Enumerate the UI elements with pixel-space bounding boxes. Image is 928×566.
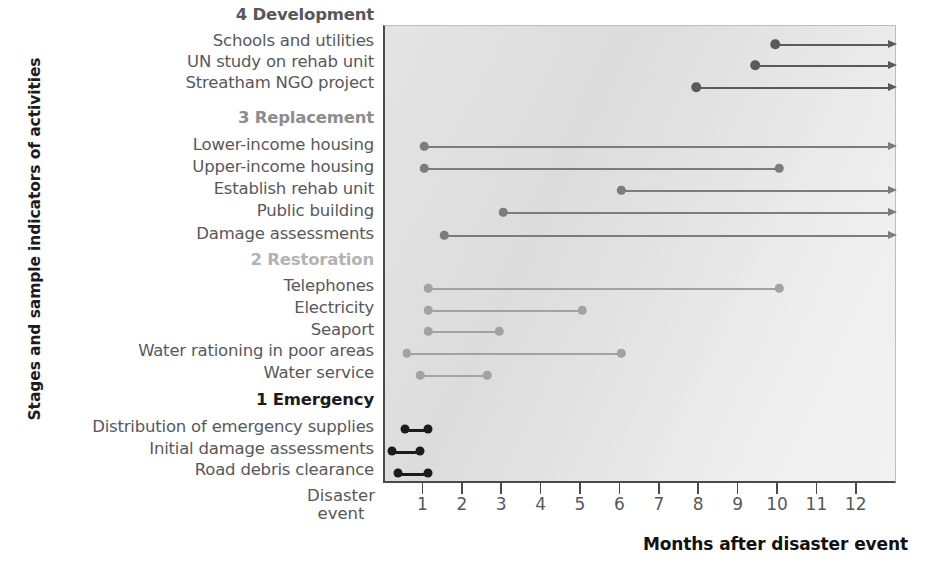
bar-start-marker	[401, 425, 410, 434]
bar-stem	[424, 168, 779, 170]
x-axis-title: Months after disaster event	[396, 534, 908, 554]
bar-stem	[755, 65, 889, 67]
bar-stem	[775, 44, 889, 46]
bar-end-marker	[775, 164, 784, 173]
activity-label-water-service: Water service	[263, 365, 374, 382]
origin-label: Disaster event	[292, 487, 390, 523]
bar-stem	[503, 212, 889, 214]
bar-start-marker	[499, 208, 508, 217]
activity-label-schools-and-utilities: Schools and utilities	[213, 33, 374, 50]
bar-start-marker	[617, 186, 626, 195]
bar-start-marker	[424, 306, 433, 315]
x-tick-5	[579, 483, 581, 494]
bar-continues-arrowhead	[888, 142, 897, 150]
bar-stem	[621, 190, 889, 192]
x-tick-10	[776, 483, 778, 494]
bar-start-marker	[402, 349, 411, 358]
bar-stem	[428, 288, 779, 290]
bar-continues-arrowhead	[888, 208, 897, 216]
activity-label-public-building: Public building	[257, 203, 374, 220]
bars-container	[385, 26, 895, 481]
x-tick-label-8: 8	[693, 494, 704, 514]
x-tick-label-10: 10	[766, 494, 788, 514]
x-tick-label-7: 7	[653, 494, 664, 514]
x-tick-12	[855, 483, 857, 494]
plot-area	[383, 25, 896, 483]
x-tick-label-5: 5	[575, 494, 586, 514]
bar-stem	[424, 146, 889, 148]
bar-end-marker	[483, 371, 492, 380]
bar-start-marker	[420, 164, 429, 173]
x-tick-3	[500, 483, 502, 494]
activity-label-establish-rehab-unit: Establish rehab unit	[214, 181, 374, 198]
bar-end-marker	[775, 284, 784, 293]
x-tick-label-9: 9	[732, 494, 743, 514]
bar-end-marker	[617, 349, 626, 358]
bar-stem	[428, 310, 582, 312]
stage-heading-3-replacement: 3 Replacement	[238, 110, 374, 127]
bar-end-marker	[416, 447, 425, 456]
bar-start-marker	[770, 39, 780, 49]
x-tick-label-1: 1	[417, 494, 428, 514]
bar-start-marker	[388, 447, 397, 456]
bar-stem	[444, 235, 889, 237]
bar-start-marker	[692, 82, 702, 92]
bar-continues-arrowhead	[888, 61, 897, 69]
bar-continues-arrowhead	[888, 40, 897, 48]
x-tick-label-6: 6	[614, 494, 625, 514]
activity-label-telephones: Telephones	[284, 278, 374, 295]
x-tick-9	[737, 483, 739, 494]
disaster-recovery-timeline-chart: Stages and sample indicators of activiti…	[0, 0, 928, 566]
x-tick-label-4: 4	[535, 494, 546, 514]
x-tick-4	[540, 483, 542, 494]
bar-start-marker	[751, 60, 761, 70]
bar-end-marker	[423, 425, 432, 434]
bar-continues-arrowhead	[888, 186, 897, 194]
activity-label-water-rationing-in-poor-areas: Water rationing in poor areas	[138, 343, 374, 360]
bar-start-marker	[420, 142, 429, 151]
activity-label-road-debris-clearance: Road debris clearance	[195, 462, 374, 479]
activity-label-initial-damage-assessments: Initial damage assessments	[149, 441, 374, 458]
x-tick-6	[619, 483, 621, 494]
activity-label-un-study-on-rehab-unit: UN study on rehab unit	[187, 54, 374, 71]
stage-heading-4-development: 4 Development	[236, 7, 374, 24]
origin-label-line1: Disaster	[292, 487, 390, 505]
bar-start-marker	[394, 469, 403, 478]
stage-heading-1-emergency: 1 Emergency	[256, 392, 374, 409]
x-tick-11	[816, 483, 818, 494]
bar-end-marker	[578, 306, 587, 315]
bar-end-marker	[495, 327, 504, 336]
bar-continues-arrowhead	[888, 83, 897, 91]
bar-stem	[420, 375, 487, 377]
bar-start-marker	[440, 231, 449, 240]
bar-stem	[428, 331, 499, 333]
activity-label-distribution-of-emergency-supplies: Distribution of emergency supplies	[92, 419, 374, 436]
x-tick-label-2: 2	[456, 494, 467, 514]
bar-start-marker	[424, 327, 433, 336]
x-tick-label-11: 11	[806, 494, 828, 514]
activity-label-electricity: Electricity	[294, 300, 374, 317]
x-tick-2	[461, 483, 463, 494]
x-tick-1	[422, 483, 424, 494]
bar-start-marker	[424, 284, 433, 293]
activity-label-damage-assessments: Damage assessments	[196, 226, 374, 243]
activity-label-streatham-ngo-project: Streatham NGO project	[186, 75, 374, 92]
stage-heading-2-restoration: 2 Restoration	[251, 252, 374, 269]
bar-stem	[696, 87, 889, 89]
activity-label-seaport: Seaport	[311, 322, 374, 339]
bar-continues-arrowhead	[888, 231, 897, 239]
x-axis-tick-labels: 123456789101112	[383, 494, 896, 520]
x-tick-8	[697, 483, 699, 494]
activity-label-upper-income-housing: Upper-income housing	[192, 159, 374, 176]
x-tick-label-12: 12	[845, 494, 867, 514]
origin-label-line2: event	[292, 505, 390, 523]
bar-end-marker	[423, 469, 432, 478]
activity-label-lower-income-housing: Lower-income housing	[193, 137, 374, 154]
bar-stem	[407, 353, 622, 355]
x-tick-7	[658, 483, 660, 494]
x-tick-label-3: 3	[496, 494, 507, 514]
bar-start-marker	[416, 371, 425, 380]
row-label-column: 4 DevelopmentSchools and utilitiesUN stu…	[8, 0, 380, 483]
